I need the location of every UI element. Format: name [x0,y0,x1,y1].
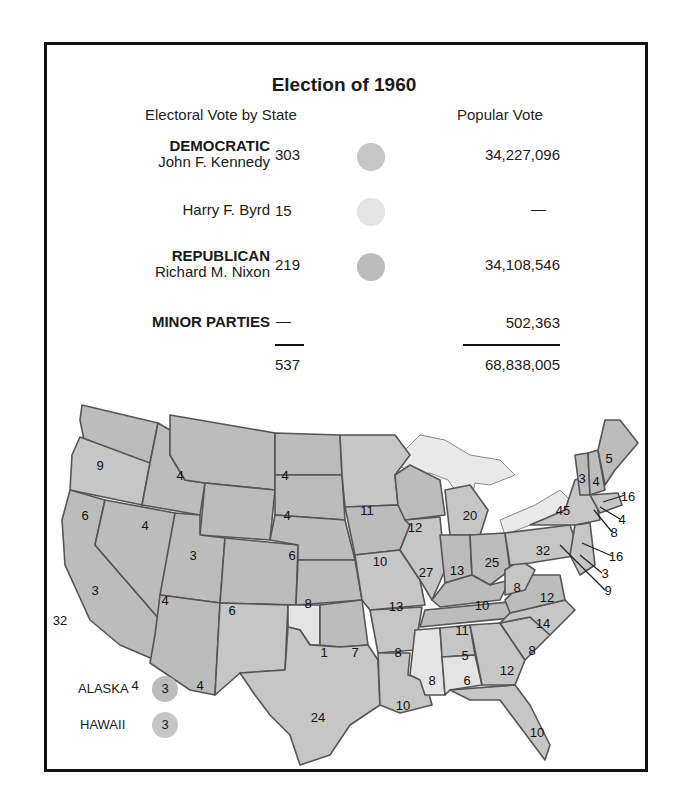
state-label-DE: 3 [601,566,608,581]
electoral-total: 537 [275,356,300,373]
state-label-PA: 32 [536,543,550,558]
state-label-MD: 9 [604,583,611,598]
state-label-MN: 11 [360,503,374,518]
title: Election of 1960 [0,74,688,96]
electoral-vote-header: Electoral Vote by State [145,106,297,123]
party-name: REPUBLICAN [172,248,270,264]
state-label-OR: 6 [81,508,88,523]
state-label-TN: 11 [455,623,469,638]
state-label-WV: 8 [513,580,520,595]
state-label-WI: 12 [408,520,422,535]
state-label-CA: 32 [53,613,67,628]
electoral-votes: 15 [275,202,292,219]
state-CO [220,538,298,605]
state-label-FL: 10 [530,725,544,740]
state-label-UT: 4 [161,593,168,608]
state-label-NH: 4 [592,474,599,489]
democratic-color-swatch [357,143,385,171]
popular-votes: 502,363 [506,314,560,331]
state-label-NE: 6 [288,548,295,563]
popular-votes: 34,227,096 [485,146,560,163]
state-label-LA: 10 [396,698,410,713]
state-label-RI: 4 [618,512,625,527]
candidate-name: Richard M. Nixon [155,264,270,280]
alaska-label: ALASKA [78,681,129,696]
byrd-color-swatch [357,198,385,226]
state-label-MT: 4 [176,468,183,483]
state-label-VA: 12 [540,590,554,605]
state-label-NY: 45 [556,503,570,518]
hawaii-votes: 3 [152,712,178,738]
state-label-MO: 13 [389,599,403,614]
electoral-votes: — [276,312,291,329]
popular-votes: 34,108,546 [485,256,560,273]
state-MT [170,415,275,490]
state-label-IA: 10 [373,554,387,569]
popular-total-rule [463,344,560,346]
popular-votes: — [531,200,546,217]
state-label-KS: 8 [304,596,311,611]
state-OK [320,600,368,647]
state-ME [598,420,638,485]
state-KY [432,575,510,607]
state-label-OK1: 1 [320,645,327,660]
state-label-CT: 8 [610,525,617,540]
republican-color-swatch [357,253,385,281]
state-label-IL: 27 [419,565,433,580]
electoral-votes: 303 [275,146,300,163]
state-label-WA: 9 [96,458,103,473]
state-label-KY: 10 [475,598,489,613]
party-name: MINOR PARTIES [152,314,270,330]
state-label-NV: 3 [91,583,98,598]
party-name: DEMOCRATIC [169,138,270,154]
state-label-ID: 4 [141,518,148,533]
electoral-total-rule [275,344,304,346]
popular-total: 68,838,005 [485,356,560,373]
state-label-MA: 16 [621,489,635,504]
state-label-IN: 13 [450,563,464,578]
state-label-ME: 5 [605,451,612,466]
state-label-OH: 25 [485,555,499,570]
state-label-ND: 4 [281,468,288,483]
state-label-AZ: 4 [131,678,138,693]
state-WY [200,483,275,540]
candidate-name: Harry F. Byrd [182,202,270,218]
state-label-AR: 8 [394,645,401,660]
state-label-SC: 8 [528,643,535,658]
state-label-MI: 20 [463,508,477,523]
state-label-AL5: 5 [461,648,468,663]
state-label-VT: 3 [578,471,585,486]
candidate-name: John F. Kennedy [158,154,270,170]
state-label-NJ: 16 [609,549,623,564]
popular-vote-header: Popular Vote [457,106,543,123]
state-label-WY: 3 [189,548,196,563]
state-label-NM: 4 [196,678,203,693]
state-label-TX: 24 [311,710,325,725]
us-electoral-map: 9632344346444468172411101381012272013251… [0,395,688,795]
state-label-NC: 14 [536,616,550,631]
state-label-GA: 12 [500,663,514,678]
state-label-AL: 6 [463,673,470,688]
state-label-OK: 7 [351,645,358,660]
alaska-votes: 3 [152,676,178,702]
state-label-MS: 8 [428,673,435,688]
electoral-votes: 219 [275,256,300,273]
state-label-CO: 6 [228,603,235,618]
state-label-SD: 4 [283,508,290,523]
state-FL [450,685,550,760]
hawaii-label: HAWAII [80,717,125,732]
